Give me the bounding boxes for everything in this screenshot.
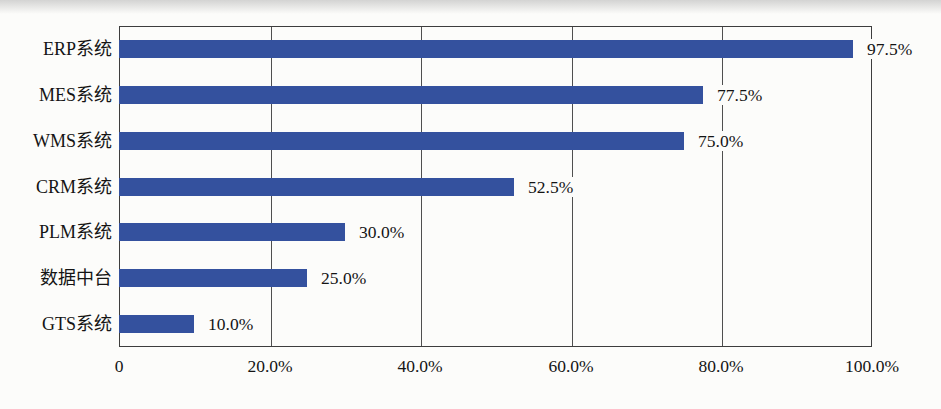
bar bbox=[119, 132, 684, 150]
bar bbox=[119, 178, 514, 196]
category-label: PLM系统 bbox=[7, 221, 112, 243]
x-tick-label: 0 bbox=[74, 356, 164, 376]
category-label: WMS系统 bbox=[7, 130, 112, 152]
category-label: MES系统 bbox=[7, 84, 112, 106]
bar bbox=[119, 269, 307, 287]
bar bbox=[119, 223, 345, 241]
bar bbox=[119, 40, 853, 58]
category-label: CRM系统 bbox=[7, 176, 112, 198]
value-label: 25.0% bbox=[317, 268, 370, 288]
category-label: ERP系统 bbox=[7, 38, 112, 60]
value-label: 52.5% bbox=[524, 177, 577, 197]
value-label: 75.0% bbox=[694, 131, 747, 151]
x-tick-label: 60.0% bbox=[526, 356, 616, 376]
bar-chart: 020.0%40.0%60.0%80.0%100.0%ERP系统97.5%MES… bbox=[0, 0, 941, 409]
scan-artifact-band bbox=[0, 0, 941, 14]
value-label: 30.0% bbox=[355, 222, 408, 242]
value-label: 10.0% bbox=[204, 314, 257, 334]
x-tick-label: 40.0% bbox=[375, 356, 465, 376]
gridline-80 bbox=[722, 27, 723, 346]
x-tick-label: 80.0% bbox=[676, 356, 766, 376]
x-tick-label: 100.0% bbox=[827, 356, 917, 376]
value-label: 77.5% bbox=[713, 85, 766, 105]
x-tick-label: 20.0% bbox=[225, 356, 315, 376]
bar bbox=[119, 315, 194, 333]
category-label: GTS系统 bbox=[7, 313, 112, 335]
category-label: 数据中台 bbox=[7, 267, 112, 289]
value-label: 97.5% bbox=[863, 39, 916, 59]
bar bbox=[119, 86, 703, 104]
